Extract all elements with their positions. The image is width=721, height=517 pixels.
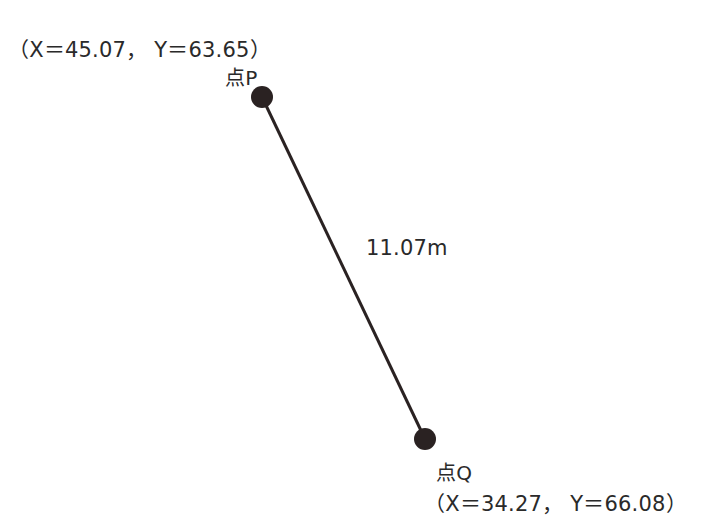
point-p-coordinates: （X＝45.07， Y＝63.65） <box>8 33 271 63</box>
segment-length-label: 11.07m <box>366 236 448 260</box>
point-q-marker <box>414 428 436 450</box>
point-q-label: 点Q <box>436 457 472 486</box>
diagram-canvas <box>0 0 721 517</box>
point-q-coordinates: （X＝34.27， Y＝66.08） <box>424 487 687 517</box>
point-p-label: 点P <box>225 62 257 91</box>
segment-pq <box>262 97 425 439</box>
